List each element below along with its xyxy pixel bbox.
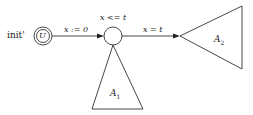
a2-label: A2 — [214, 35, 224, 46]
initial-state-label: init' — [7, 31, 25, 40]
a2-index: 2 — [221, 39, 225, 46]
arrowhead-icon — [97, 34, 104, 39]
a1-index: 1 — [117, 93, 121, 100]
edge1-label: x := 0 — [64, 26, 88, 34]
diagram-graphics — [0, 0, 253, 115]
a1-label: A1 — [110, 89, 120, 100]
subautomaton-a2-triangle — [180, 6, 242, 69]
invariant-label: x <= t — [100, 14, 126, 22]
middle-state-circle — [104, 27, 122, 45]
diagram-canvas: init' U x := 0 x <= t x = t A1 A2 — [0, 0, 253, 115]
urgent-symbol: U — [39, 32, 46, 40]
arrowhead-icon — [173, 34, 180, 39]
edge2-label: x = t — [143, 26, 163, 34]
